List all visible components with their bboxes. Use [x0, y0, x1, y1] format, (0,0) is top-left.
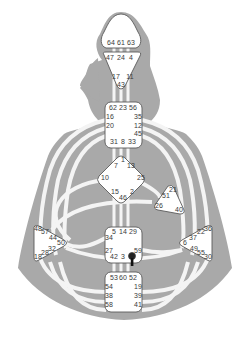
gate-62[interactable]: 62 — [109, 104, 117, 111]
gate-40[interactable]: 40 — [175, 206, 183, 213]
gate-21[interactable]: 21 — [169, 186, 177, 193]
gate-56[interactable]: 56 — [129, 104, 137, 111]
gate-54[interactable]: 54 — [105, 283, 113, 290]
gate-60[interactable]: 60 — [119, 274, 127, 281]
gate-10[interactable]: 10 — [101, 174, 109, 181]
gate-8[interactable]: 8 — [121, 138, 125, 145]
gate-34[interactable]: 34 — [105, 234, 113, 241]
gate-16[interactable]: 16 — [106, 113, 114, 120]
gate-7[interactable]: 7 — [114, 162, 118, 169]
gate-22[interactable]: 22 — [197, 228, 205, 235]
gate-11[interactable]: 11 — [126, 73, 133, 80]
gate-17[interactable]: 17 — [112, 73, 120, 80]
gate-42[interactable]: 42 — [110, 253, 118, 260]
gate-39[interactable]: 39 — [134, 292, 142, 299]
gate-38[interactable]: 38 — [105, 292, 113, 299]
gate-32[interactable]: 32 — [48, 245, 56, 252]
gate-46[interactable]: 2 — [130, 188, 134, 195]
gate-6[interactable]: 6 — [183, 239, 187, 246]
gate-24[interactable]: 24 — [117, 54, 125, 61]
gate-58[interactable]: 58 — [105, 301, 113, 308]
root-center[interactable]: 53 60 52 54 19 38 39 58 41 — [105, 272, 142, 312]
gate-18[interactable]: 18 — [34, 253, 42, 260]
gate-44[interactable]: 44 — [49, 234, 57, 241]
gate-25[interactable]: 25 — [137, 174, 145, 181]
gate-29[interactable]: 29 — [129, 228, 137, 235]
gate-28[interactable]: 28 — [41, 249, 49, 256]
gate-64[interactable]: 64 — [107, 39, 115, 46]
gate-41[interactable]: 41 — [134, 301, 142, 308]
gate-20[interactable]: 20 — [106, 122, 114, 129]
gate-47[interactable]: 47 — [106, 54, 114, 61]
gate-43[interactable]: 43 — [117, 81, 125, 88]
gate-23[interactable]: 23 — [119, 104, 127, 111]
gate-2[interactable]: 46 — [119, 194, 127, 201]
gate-33[interactable]: 33 — [128, 138, 136, 145]
gate-45[interactable]: 45 — [134, 130, 142, 137]
gate-14[interactable]: 14 — [119, 228, 127, 235]
gate-19[interactable]: 19 — [134, 283, 142, 290]
gate-61[interactable]: 61 — [117, 39, 125, 46]
gate-26[interactable]: 26 — [155, 202, 163, 209]
gate-12[interactable]: 12 — [134, 122, 142, 129]
gate-1[interactable]: 1 — [121, 156, 125, 163]
bodygraph: 64 61 63 47 24 4 17 11 43 62 23 56 16 35… — [0, 0, 252, 337]
gate-36[interactable]: 36 — [204, 225, 212, 232]
gate-35[interactable]: 35 — [134, 113, 142, 120]
gate-51[interactable]: 51 — [162, 192, 170, 199]
gate-59[interactable]: 59 — [134, 247, 142, 254]
gate-3[interactable]: 3 — [121, 253, 125, 260]
gate-57[interactable]: 57 — [41, 228, 49, 235]
gate-52[interactable]: 52 — [129, 274, 137, 281]
gate-31[interactable]: 31 — [110, 138, 118, 145]
sacral-center[interactable]: 5 14 29 34 27 59 42 3 — [105, 227, 142, 266]
gate-30[interactable]: 30 — [204, 253, 212, 260]
gate-4[interactable]: 4 — [129, 54, 133, 61]
gate-37[interactable]: 37 — [189, 234, 197, 241]
gate-53[interactable]: 53 — [110, 274, 118, 281]
gate-50[interactable]: 50 — [57, 239, 65, 246]
throat-center[interactable]: 62 23 56 16 35 20 12 45 31 8 33 — [105, 102, 142, 148]
gate-13[interactable]: 13 — [127, 162, 135, 169]
gate-63[interactable]: 63 — [127, 39, 135, 46]
gate-15[interactable]: 15 — [111, 188, 119, 195]
